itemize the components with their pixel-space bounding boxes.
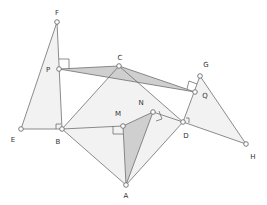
point-g[interactable] [198, 74, 203, 79]
point-b[interactable] [60, 127, 65, 132]
geometry-diagram: F P C G Q E B M N D H A [0, 0, 267, 205]
point-q[interactable] [193, 90, 198, 95]
triangle-dgh [183, 76, 246, 144]
label-d: D [183, 132, 188, 140]
label-c: C [118, 54, 123, 62]
label-b: B [56, 138, 61, 146]
point-m[interactable] [121, 124, 126, 129]
point-f[interactable] [55, 20, 60, 25]
point-p[interactable] [57, 67, 62, 72]
label-p: P [46, 66, 50, 74]
point-c[interactable] [117, 64, 122, 69]
label-q: Q [202, 92, 208, 100]
label-a: A [124, 192, 129, 200]
point-d[interactable] [181, 120, 186, 125]
point-n[interactable] [151, 110, 156, 115]
triangle-efb [21, 22, 62, 129]
label-h: H [250, 153, 255, 161]
point-e[interactable] [19, 127, 24, 132]
point-h[interactable] [244, 142, 249, 147]
label-n: N [138, 99, 143, 107]
label-e: E [11, 136, 15, 144]
point-a[interactable] [124, 183, 129, 188]
label-g: G [203, 61, 208, 69]
label-f: F [55, 9, 59, 17]
label-m: M [115, 110, 121, 118]
